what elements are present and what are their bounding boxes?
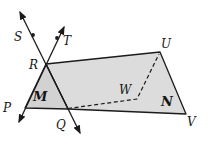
- label-plane-M: M: [32, 89, 48, 104]
- label-U: U: [161, 37, 172, 51]
- label-S: S: [14, 30, 22, 44]
- label-W: W: [119, 83, 133, 97]
- point-T-dot: [55, 36, 59, 40]
- geometry-figure: STRPQUVWMN: [0, 0, 208, 157]
- point-S-dot: [31, 33, 35, 37]
- label-P: P: [2, 101, 12, 115]
- label-Q: Q: [56, 118, 66, 132]
- label-V: V: [187, 115, 197, 129]
- label-plane-N: N: [160, 94, 174, 109]
- label-R: R: [28, 58, 38, 72]
- label-T: T: [63, 34, 72, 48]
- geometry-diagram-svg: STRPQUVWMN: [0, 0, 208, 157]
